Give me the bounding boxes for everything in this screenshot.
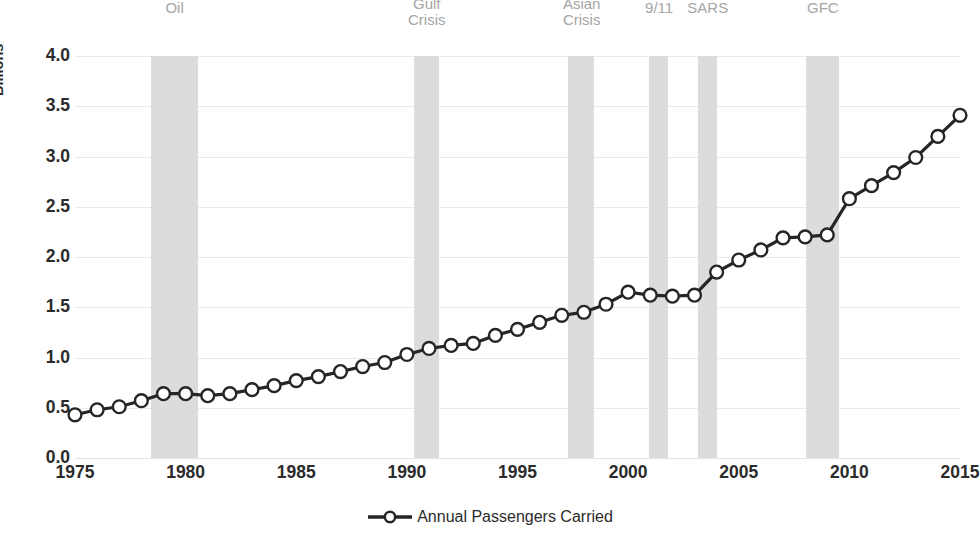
data-point-marker xyxy=(577,306,590,319)
data-point-marker xyxy=(931,130,944,143)
x-axis-tick-label: 1995 xyxy=(483,462,553,483)
data-point-marker xyxy=(223,387,236,400)
x-axis-tick-label: 1985 xyxy=(261,462,331,483)
x-axis-tick-label: 2015 xyxy=(925,462,980,483)
data-point-marker xyxy=(732,254,745,267)
data-point-marker xyxy=(644,289,657,302)
data-point-marker xyxy=(467,337,480,350)
data-point-marker xyxy=(445,339,458,352)
y-axis-tick-label: 1.0 xyxy=(16,347,70,368)
legend-marker-icon xyxy=(367,509,413,525)
data-point-marker xyxy=(334,365,347,378)
y-axis-title: Billions xyxy=(0,44,6,96)
data-point-marker xyxy=(688,289,701,302)
data-point-marker xyxy=(622,286,635,299)
data-point-marker xyxy=(312,370,325,383)
x-axis-tick-label: 1990 xyxy=(372,462,442,483)
data-point-marker xyxy=(754,244,767,257)
data-point-marker xyxy=(865,179,878,192)
gridline xyxy=(75,458,960,459)
data-point-marker xyxy=(533,316,546,329)
data-point-marker xyxy=(179,387,192,400)
legend-label-annual-passengers-carried: Annual Passengers Carried xyxy=(417,508,613,526)
x-axis-tick-label: 1980 xyxy=(151,462,221,483)
series-line xyxy=(75,115,960,415)
event-band-label: Gulf Crisis xyxy=(382,0,472,28)
y-axis-tick-label: 3.5 xyxy=(16,95,70,116)
y-axis-tick-label: 2.5 xyxy=(16,196,70,217)
x-axis-tick-label: 2010 xyxy=(814,462,884,483)
y-axis-tick-label: 2.0 xyxy=(16,246,70,267)
data-point-marker xyxy=(69,408,82,421)
data-point-marker xyxy=(268,379,281,392)
chart-container: Billions 4.03.53.02.52.01.51.00.50.0 Oil… xyxy=(0,0,980,545)
data-point-marker xyxy=(600,298,613,311)
chart-legend: Annual Passengers Carried xyxy=(0,508,980,526)
data-point-marker xyxy=(511,323,524,336)
x-axis-tick-label: 1975 xyxy=(40,462,110,483)
data-point-marker xyxy=(710,266,723,279)
data-point-marker xyxy=(821,228,834,241)
data-point-marker xyxy=(290,374,303,387)
x-axis-tick-label: 2000 xyxy=(593,462,663,483)
y-axis-tick-label: 1.5 xyxy=(16,296,70,317)
event-band-label: Oil xyxy=(130,0,220,16)
data-point-marker xyxy=(423,342,436,355)
event-band-label: GFC xyxy=(778,0,868,16)
data-point-marker xyxy=(799,231,812,244)
data-point-marker xyxy=(113,400,126,413)
y-axis-tick-label: 3.0 xyxy=(16,146,70,167)
data-series-annual-passengers-carried xyxy=(75,56,960,458)
y-axis-tick-label: 4.0 xyxy=(16,45,70,66)
data-point-marker xyxy=(843,192,856,205)
event-band-label: SARS xyxy=(663,0,753,16)
data-point-marker xyxy=(378,356,391,369)
y-axis: Billions 4.03.53.02.52.01.51.00.50.0 xyxy=(8,56,70,458)
data-point-marker xyxy=(777,232,790,245)
data-point-marker xyxy=(489,329,502,342)
data-point-marker xyxy=(887,166,900,179)
y-axis-tick-label: 0.5 xyxy=(16,397,70,418)
data-point-marker xyxy=(666,290,679,303)
data-point-marker xyxy=(400,348,413,361)
plot-area xyxy=(75,56,960,458)
data-point-marker xyxy=(356,360,369,373)
data-point-marker xyxy=(91,403,104,416)
data-point-marker xyxy=(157,387,170,400)
data-point-marker xyxy=(201,389,214,402)
x-axis-tick-label: 2005 xyxy=(704,462,774,483)
data-point-marker xyxy=(555,309,568,322)
data-point-marker xyxy=(909,151,922,164)
x-axis: 197519801985199019952000200520102015 xyxy=(75,462,960,488)
data-point-marker xyxy=(246,383,259,396)
data-point-marker xyxy=(954,109,967,122)
data-point-marker xyxy=(135,394,148,407)
